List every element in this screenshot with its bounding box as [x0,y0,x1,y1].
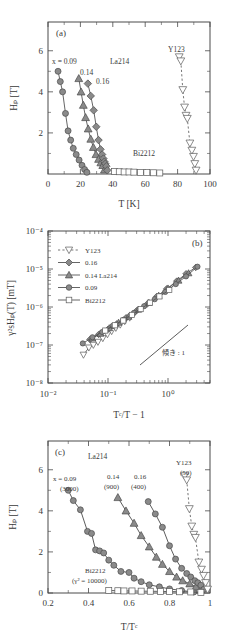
data-point-square-open [167,589,173,595]
data-point-circle-filled [106,557,112,563]
panel-c-xtick: 0.4 [83,598,95,608]
data-point-circle-filled [57,79,63,85]
panel-c-xtick: 0.8 [164,598,176,608]
panel-c-label-bi2212-gamma: (γ² = 10000) [72,577,107,585]
data-point-circle-filled [111,562,117,568]
data-point-circle-filled [152,511,158,517]
legend-label: Y123 [85,247,101,255]
legend-label: 0.16 [85,259,98,267]
data-point-circle-filled [173,556,179,562]
panel-c-label-la214: La214 [88,452,107,461]
panel-c-xlabel: T/Tᶜ [121,622,138,632]
data-point-circle-filled [90,335,95,340]
panel-b-xtick: 10⁰ [162,389,175,399]
panel-b-ytick: 10⁻⁸ [26,378,43,388]
panel-a-label-x009: x = 0.09 [52,57,77,66]
data-point-circle-filled [118,568,124,574]
panel-a-ytick: 2 [39,128,44,138]
panel-c-tag: (c) [55,447,65,457]
panel-c-label-y123: Y123 [176,459,192,467]
data-point-circle-filled [77,507,83,513]
panel-a-xtick: 40 [108,179,118,189]
data-point-square-open [66,297,72,303]
data-point-square-open [147,300,152,305]
data-point-circle-filled [60,89,66,95]
panel-c-label-x009-gamma: (3000) [60,485,79,493]
data-point-circle-filled [70,145,76,151]
panel-a-ytick: 6 [39,46,44,56]
legend-label: Bi2212 [85,297,106,305]
panel-c-xtick: 1 [208,598,213,608]
data-point-circle-filled [145,499,151,505]
data-point-square-open [157,588,163,594]
data-point-square-open [198,589,204,595]
panel-b-ytick: 10⁻⁷ [26,340,43,350]
data-point-circle-filled [126,569,132,575]
data-point-circle-filled [101,550,107,556]
data-point-square-open [157,294,162,299]
data-point-circle-filled [66,285,72,291]
data-point-circle-filled [195,264,200,269]
panel-a-xtick: 0 [46,179,51,189]
panel-a-label-016: 0.16 [96,77,109,86]
data-point-circle-filled [62,110,68,116]
data-point-square-open [129,588,135,594]
data-point-circle-filled [173,282,178,287]
panel-c-label-x014-gamma: (900) [104,483,120,491]
data-point-circle-filled [167,543,173,549]
panel-c-ytick: 0 [39,588,44,598]
data-point-circle-filled [89,530,95,536]
panel-a-xtick: 80 [173,179,183,189]
data-point-circle-filled [70,498,76,504]
data-point-square-open [157,170,163,176]
panel-c-label-x009: x = 0.09 [53,475,77,483]
panel-a-ylabel: Hₚ [T] [9,85,19,110]
data-point-square-open [121,318,126,323]
panel-c-ytick: 4 [39,506,44,516]
panel-a-plot-area [48,22,210,176]
panel-b-ylabel: γ²sHₚ(T) [mT] [6,280,17,337]
data-point-circle-filled [73,151,79,157]
data-point-square-open [137,169,143,175]
panel-a-xlabel: T [K] [118,199,139,209]
panel-b-tag: (b) [192,238,203,248]
panel-b-xtick: 10⁻¹ [100,389,117,399]
data-point-circle-filled [65,128,71,134]
panel-c-ytick: 2 [39,547,44,557]
data-point-square-open [103,328,108,333]
panel-b-xlabel: Tᶜ/T − 1 [113,410,145,420]
data-point-square-open [106,588,112,594]
data-point-square-open [131,169,137,175]
data-point-square-open [138,588,144,594]
panel-b-ytick: 10⁻⁴ [26,226,43,236]
panel-b-frame [48,231,210,383]
panel-a-label-014: 0.14 [80,68,93,77]
panel-c-xtick: 0.6 [123,598,135,608]
data-point-circle-filled [146,582,152,588]
data-point-square-open [147,588,153,594]
panel-c: (c) La214 x = 0.09 (3000) 0.14 (900) 0.1… [0,425,234,638]
panel-c-ytick: 6 [39,465,44,475]
data-point-square-open [188,589,194,595]
panel-c-label-x016-gamma: (400) [131,483,147,491]
panel-c-label-x016: 0.16 [134,473,147,481]
data-point-square-open [121,588,127,594]
panel-c-label-bi2212: Bi2212 [85,567,106,575]
data-point-circle-filled [183,274,188,279]
data-point-square-open [129,312,134,317]
legend-label: 0.09 [85,284,98,292]
data-point-square-open [138,307,143,312]
data-point-circle-filled [159,524,165,530]
panel-c-xtick: 0.2 [42,598,53,608]
figure-root: (a) x = 0.09 0.14 0.16 La214 Bi2212 Y123… [0,0,234,638]
panel-a-xtick: 60 [141,179,151,189]
panel-b-plot-area: Y1230.160.14 La2140.09Bi2212 傾き : 1 [48,231,210,383]
panel-a-label-la214: La214 [110,57,129,66]
data-point-square-open [115,588,121,594]
data-point-circle-filled [138,579,144,585]
panel-c-label-x014: 0.14 [107,473,120,481]
panel-a-label-y123: Y123 [168,45,185,54]
panel-c-ylabel: Hₚ [T] [8,504,18,529]
panel-c-label-y123-gamma: (50) [180,469,192,477]
panel-b-xtick: 10⁻² [40,389,57,399]
